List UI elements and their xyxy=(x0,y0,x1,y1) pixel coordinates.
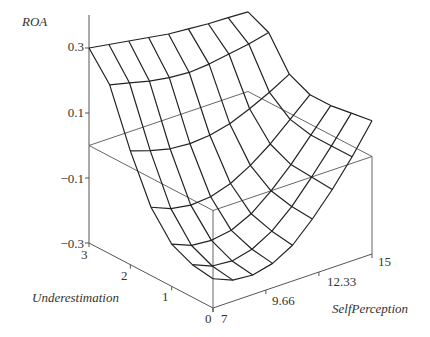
z-tick-0.3: 0.3 xyxy=(68,39,84,54)
plot-canvas: ROA 0.3 0.1 −0.1 −0.3 3 2 1 0 Underestim… xyxy=(0,0,430,337)
y-axis-label: Underestimation xyxy=(32,290,119,305)
z-tick-0.1: 0.1 xyxy=(68,105,84,120)
y-tick-0: 0 xyxy=(205,311,212,326)
x-tick-9.66: 9.66 xyxy=(272,293,295,308)
x-axis-label: SelfPerception xyxy=(332,301,408,316)
y-tick-3: 3 xyxy=(81,247,88,262)
z-axis-label: ROA xyxy=(21,14,47,29)
x-tick-12.33: 12.33 xyxy=(327,274,356,289)
surface-wireframe xyxy=(89,12,372,280)
surface-plot: ROA 0.3 0.1 −0.1 −0.3 3 2 1 0 Underestim… xyxy=(0,0,430,337)
x-tick-15: 15 xyxy=(378,254,391,269)
y-tick-2: 2 xyxy=(121,268,128,283)
y-tick-1: 1 xyxy=(162,289,169,304)
z-tick-neg0.1: −0.1 xyxy=(60,171,84,186)
x-tick-7: 7 xyxy=(221,311,228,326)
